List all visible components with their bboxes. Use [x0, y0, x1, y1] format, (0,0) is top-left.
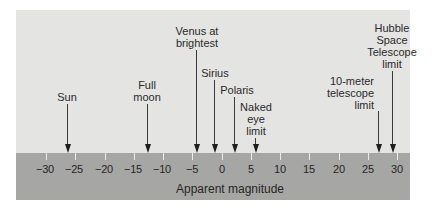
marker-label-full-moon: Full moon: [102, 79, 192, 103]
label-line: Space: [347, 34, 437, 46]
marker-label-polaris: Polaris: [192, 84, 282, 96]
marker-label-sun: Sun: [22, 91, 112, 103]
arrowhead-icon: [212, 144, 218, 153]
axis-tick: [280, 153, 281, 160]
tick-label: 15: [294, 163, 324, 175]
axis-tick: [163, 153, 164, 160]
marker-label-sirius: Sirius: [170, 67, 260, 79]
tick-label: 5: [236, 163, 266, 175]
axis-tick: [251, 153, 252, 160]
label-line: Venus at: [152, 25, 242, 37]
label-line: limit: [347, 58, 437, 70]
arrowhead-icon: [145, 144, 151, 153]
label-line: Polaris: [192, 84, 282, 96]
tick-label: 10: [265, 163, 295, 175]
axis-tick: [397, 153, 398, 160]
label-line: limit: [211, 125, 301, 137]
arrow-venus: [196, 50, 197, 145]
label-line: Sirius: [170, 67, 260, 79]
axis-tick: [368, 153, 369, 160]
tick-label: 25: [353, 163, 383, 175]
label-line: Full: [102, 79, 192, 91]
tick-label: −25: [59, 163, 89, 175]
marker-label-venus: Venus at brightest: [152, 25, 242, 49]
tick-label: −15: [118, 163, 148, 175]
axis-title: Apparent magnitude: [130, 182, 330, 196]
axis-tick: [192, 153, 193, 160]
arrowhead-icon: [376, 144, 382, 153]
marker-label-hubble: Hubble Space Telescope limit: [347, 22, 437, 70]
tick-label: 30: [382, 163, 412, 175]
label-line: moon: [102, 91, 192, 103]
label-line: Sun: [22, 91, 112, 103]
marker-label-10-meter: 10-meter telescope limit: [284, 75, 374, 111]
arrow-hubble: [392, 71, 393, 145]
arrowhead-icon: [232, 144, 238, 153]
tick-label: 0: [207, 163, 237, 175]
tick-label: −30: [30, 163, 60, 175]
label-line: brightest: [152, 37, 242, 49]
tick-label: −10: [147, 163, 177, 175]
arrowhead-icon: [65, 144, 71, 153]
arrow-full-moon: [147, 104, 148, 145]
axis-tick: [134, 153, 135, 160]
label-line: Telescope: [347, 46, 437, 58]
axis-tick: [222, 153, 223, 160]
arrow-10-meter: [378, 111, 379, 145]
axis-tick: [75, 153, 76, 160]
axis-tick: [339, 153, 340, 160]
label-line: limit: [284, 99, 374, 111]
tick-label: 20: [324, 163, 354, 175]
tick-label: −5: [177, 163, 207, 175]
axis-tick: [309, 153, 310, 160]
axis-tick: [105, 153, 106, 160]
tick-label: −20: [89, 163, 119, 175]
arrowhead-icon: [253, 144, 259, 153]
arrowhead-icon: [390, 144, 396, 153]
axis-tick: [46, 153, 47, 160]
label-line: telescope: [284, 87, 374, 99]
label-line: eye: [211, 113, 301, 125]
arrowhead-icon: [194, 144, 200, 153]
arrow-sun: [67, 104, 68, 145]
label-line: 10-meter: [284, 75, 374, 87]
label-line: Hubble: [347, 22, 437, 34]
